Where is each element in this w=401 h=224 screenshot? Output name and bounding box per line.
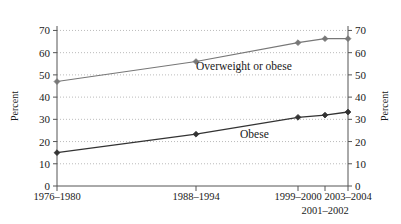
y-tick-label-right: 50: [355, 69, 367, 81]
y-axis-title-left: Percent: [9, 91, 20, 121]
y-tick-label-right: 30: [355, 113, 367, 125]
y-tick-label-left: 30: [39, 113, 51, 125]
series-line: [57, 112, 348, 153]
x-category-label: 1976–1980: [33, 191, 80, 202]
y-tick-labels-right: 010203040506070: [348, 24, 367, 192]
data-point-marker: [322, 112, 328, 118]
y-tick-label-right: 40: [355, 91, 367, 103]
data-point-marker: [345, 109, 351, 115]
y-tick-label-right: 20: [355, 136, 367, 148]
data-point-marker: [193, 131, 199, 137]
x-category-label: 1999–2000: [274, 191, 321, 202]
chart-figure: 010203040506070 010203040506070 Percent …: [0, 0, 401, 224]
y-tick-label-left: 50: [39, 69, 51, 81]
x-category-label: 2003–2004: [324, 191, 372, 202]
x-category-label: 2001–2002: [301, 205, 348, 216]
y-tick-label-right: 60: [355, 47, 367, 59]
data-point-marker: [54, 150, 60, 156]
y-tick-label-left: 40: [39, 91, 51, 103]
x-axis-category-labels: 1976–19801988–19941999–20002001–20022003…: [33, 191, 372, 216]
data-point-marker: [322, 36, 328, 42]
data-point-marker: [54, 79, 60, 85]
y-tick-label-left: 10: [39, 158, 51, 170]
data-point-marker: [295, 40, 301, 46]
gridlines: [57, 30, 348, 163]
series-annotation-overweight: Overweight or obese: [196, 60, 292, 73]
data-point-marker: [345, 36, 351, 42]
y-axis-title-right: Percent: [379, 91, 390, 121]
x-category-label: 1988–1994: [172, 191, 220, 202]
y-tick-label-left: 60: [39, 47, 51, 59]
line-chart: 010203040506070 010203040506070 Percent …: [0, 0, 401, 224]
y-tick-label-right: 10: [355, 158, 367, 170]
series-annotation-obese: Obese: [240, 128, 269, 140]
y-tick-label-left: 20: [39, 136, 51, 148]
y-tick-label-left: 70: [39, 24, 51, 36]
y-tick-labels-left: 010203040506070: [39, 24, 57, 192]
y-tick-label-right: 70: [355, 24, 367, 36]
data-series-group: [54, 36, 351, 156]
